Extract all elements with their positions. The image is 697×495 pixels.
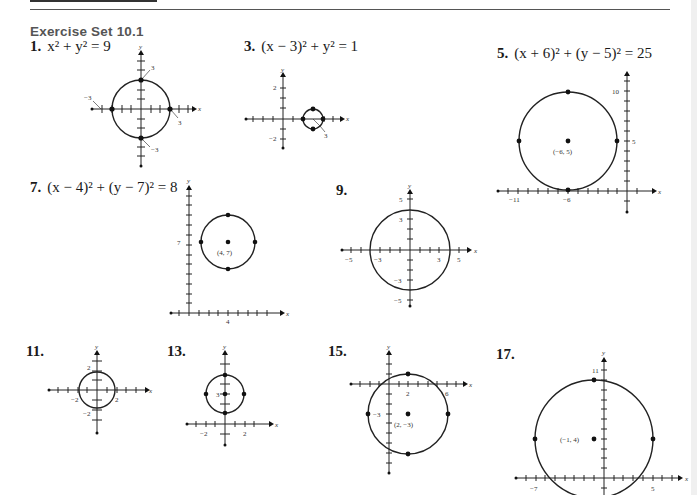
- graph-exercise-11: 2 −2 −2 2 x y: [45, 348, 155, 438]
- exercise-number: 7.: [30, 179, 41, 195]
- graph-exercise-9: 5 3 −3 −5 −5 −3 3 5 x y: [330, 188, 480, 313]
- y-axis-label: y: [94, 343, 99, 351]
- graph-exercise-7: 7 4 (4, 7) x y: [168, 183, 288, 318]
- label-x5: 5: [457, 256, 461, 264]
- label-x6: 6: [445, 390, 449, 398]
- label-xm3: −3: [84, 94, 92, 102]
- label-ym2: −2: [269, 135, 277, 143]
- x-axis-label: x: [473, 247, 478, 255]
- label-xm6: −6: [563, 196, 571, 204]
- header-bar: [30, 0, 157, 2]
- label-y3: 3: [151, 64, 155, 72]
- graph-exercise-1: 3 −3 3 −3 x y: [80, 48, 200, 168]
- exercise-number: 11.: [26, 343, 44, 359]
- label-x3: 3: [178, 119, 182, 127]
- label-x5: 5: [651, 485, 655, 493]
- label-y2: 2: [273, 84, 277, 92]
- y-axis-label: y: [407, 182, 412, 190]
- graph-exercise-13: 3 −2 2 x y: [183, 348, 283, 448]
- label-ym5: −5: [394, 297, 402, 305]
- center-label: (2, −3): [394, 421, 414, 429]
- x-axis-label: x: [274, 421, 279, 429]
- exercise-5-heading: 5.(x + 6)² + (y − 5)² = 25: [497, 45, 652, 62]
- x-axis-label: x: [684, 475, 689, 483]
- graph-exercise-17: 11 −7 5 (−1, 4) x y: [510, 350, 695, 495]
- y-axis-label: y: [601, 349, 606, 357]
- exercise-equation: (x − 3)² + y² = 1: [261, 38, 358, 54]
- label-ym3: −3: [373, 411, 381, 419]
- exercise-number: 3.: [244, 38, 255, 54]
- label-xm7: −7: [530, 485, 538, 493]
- label-y3: 3: [399, 216, 403, 224]
- x-axis-label: x: [148, 387, 153, 395]
- label-y2: 2: [87, 364, 91, 372]
- x-axis-label: x: [285, 310, 290, 318]
- label-xm2: −2: [71, 396, 79, 404]
- graph-exercise-5: −11 −6 10 5 (−6, 5) x: [490, 70, 660, 215]
- label-y10: 10: [612, 88, 620, 96]
- center-label: (−6, 5): [553, 148, 573, 156]
- exercise-number: 15.: [328, 343, 347, 359]
- label-y11: 11: [592, 367, 599, 375]
- label-y7: 7: [177, 239, 181, 247]
- label-x3: 3: [437, 256, 441, 264]
- y-axis-label: y: [186, 177, 191, 185]
- label-x2: 2: [406, 390, 410, 398]
- label-xm2: −2: [200, 430, 208, 438]
- label-y5: 5: [399, 196, 403, 204]
- label-radius: 3: [324, 132, 328, 140]
- label-xm11: −11: [509, 196, 520, 204]
- exercise-equation: (x + 6)² + (y − 5)² = 25: [514, 45, 652, 61]
- label-x4: 4: [226, 318, 230, 326]
- exercise-number: 5.: [497, 45, 508, 61]
- label-ym2: −2: [83, 410, 91, 418]
- graph-exercise-15: 2 6 −3 (2, −3) x y: [348, 348, 478, 478]
- x-axis-label: x: [345, 115, 350, 123]
- label-y3: 3: [216, 391, 220, 399]
- exercise-number: 1.: [30, 38, 41, 54]
- graph-exercise-3: 2 −2 3 x y: [240, 70, 350, 150]
- exercise-set-title: Exercise Set 10.1: [30, 24, 144, 39]
- x-axis-label: x: [657, 188, 662, 196]
- exercise-7-heading: 7.(x − 4)² + (y − 7)² = 8: [30, 179, 178, 196]
- header-rule: [30, 9, 670, 10]
- center-label: (−1, 4): [560, 436, 580, 444]
- label-xm3: −3: [374, 256, 382, 264]
- label-y5: 5: [632, 138, 636, 146]
- y-axis-label: y: [280, 66, 285, 74]
- x-axis-label: x: [468, 381, 473, 389]
- label-xm5: −5: [345, 256, 353, 264]
- y-axis-label: y: [222, 343, 227, 351]
- y-axis-label: y: [138, 43, 143, 51]
- exercise-3-heading: 3.(x − 3)² + y² = 1: [244, 38, 358, 55]
- label-x2: 2: [243, 430, 247, 438]
- y-axis-label: y: [386, 343, 391, 351]
- center-label: (4, 7): [217, 249, 233, 257]
- x-axis-label: x: [197, 105, 202, 113]
- label-ym3: −3: [394, 277, 402, 285]
- label-ym3: −3: [151, 146, 159, 154]
- label-x2: 2: [115, 396, 119, 404]
- exercise-equation: (x − 4)² + (y − 7)² = 8: [47, 179, 177, 195]
